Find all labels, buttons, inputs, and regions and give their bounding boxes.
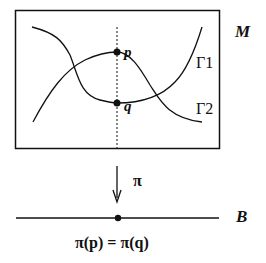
label-gamma-1: Γ1	[196, 54, 213, 74]
fiber-bundle-diagram	[0, 0, 266, 263]
label-projection: π	[133, 172, 142, 190]
point-p-dot	[114, 49, 121, 56]
label-q: q	[124, 98, 132, 115]
label-gamma-2: Γ2	[196, 100, 213, 120]
label-manifold: M	[235, 22, 250, 42]
equation-label: π(p) = π(q)	[75, 234, 149, 252]
label-base: B	[236, 207, 247, 227]
base-point-dot	[115, 215, 121, 221]
label-p: p	[124, 44, 132, 61]
point-q-dot	[114, 100, 121, 107]
